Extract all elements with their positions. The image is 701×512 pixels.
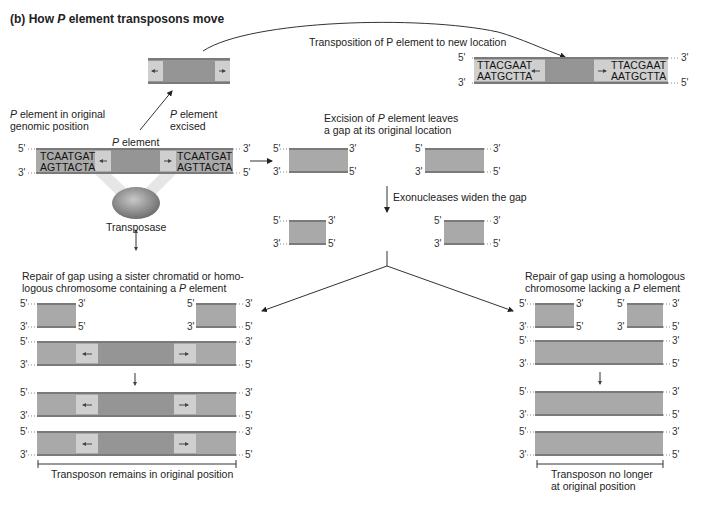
end-label: 5' — [273, 216, 280, 226]
end-label: 5' — [672, 450, 679, 460]
end-label: 5' — [245, 360, 252, 370]
end-label: 3' — [672, 427, 679, 437]
end-label: 5' — [519, 336, 526, 346]
end-label: 3' — [20, 360, 27, 370]
end-label: 3' — [78, 299, 85, 309]
new-left-sequence: TTACGAATAATGCTTA — [477, 60, 532, 82]
end-label: 5' — [328, 239, 335, 249]
end-label: 5' — [273, 144, 280, 154]
end-label: 3' — [273, 167, 280, 177]
end-label: 3' — [672, 387, 679, 397]
end-label: 3' — [493, 144, 500, 154]
end-label: 5' — [245, 411, 252, 421]
end-label: 3' — [519, 359, 526, 369]
transposase-label: Transposase — [106, 221, 166, 233]
gap-fragments-1 — [280, 149, 492, 172]
left-template-strand — [28, 342, 244, 365]
end-label: 5' — [493, 167, 500, 177]
end-label: 5' — [458, 53, 465, 63]
right-result-strand-1 — [527, 392, 671, 415]
left-bracket — [38, 460, 236, 468]
right-bracket — [537, 460, 663, 468]
end-label: 5' — [617, 299, 624, 309]
end-label: 3' — [245, 299, 252, 309]
end-label: 3' — [20, 411, 27, 421]
end-label: 3' — [519, 450, 526, 460]
end-label: 3' — [349, 144, 356, 154]
end-label: 3' — [493, 216, 500, 226]
new-right-sequence: TTACGAATAATGCTTA — [611, 60, 666, 82]
original-left-sequence: TCAATGATAGTTACTA — [40, 151, 95, 173]
end-label: 5' — [434, 216, 441, 226]
end-label: 3' — [273, 239, 280, 249]
end-label: 5' — [187, 299, 194, 309]
no-longer-label: Transposon no longerat original position — [551, 468, 653, 492]
end-label: 5' — [20, 337, 27, 347]
end-label: 3' — [672, 299, 679, 309]
gap-fragments-2 — [280, 221, 492, 244]
exonucleases-label: Exonucleases widen the gap — [393, 191, 527, 203]
end-label: 3' — [245, 388, 252, 398]
end-label: 5' — [20, 299, 27, 309]
end-label: 3' — [20, 450, 27, 460]
end-label: 3' — [415, 167, 422, 177]
end-label: 5' — [245, 322, 252, 332]
end-label: 5' — [672, 410, 679, 420]
transposase-protein — [112, 187, 160, 219]
end-label: 3' — [187, 322, 194, 332]
excision-label: Excision of P element leavesa gap at its… — [324, 112, 458, 136]
left-result-strand-2 — [28, 432, 244, 455]
left-result-strand-1 — [28, 393, 244, 416]
end-label: 3' — [243, 144, 250, 154]
end-label: 5' — [20, 388, 27, 398]
end-label: 5' — [519, 427, 526, 437]
original-position-label: P element in originalgenomic position — [10, 108, 105, 132]
end-label: 5' — [18, 144, 25, 154]
repair-sister-label: Repair of gap using a sister chromatid o… — [22, 270, 244, 294]
excised-p-element — [148, 59, 230, 83]
end-label: 3' — [18, 168, 25, 178]
end-label: 5' — [519, 387, 526, 397]
end-label: 3' — [245, 337, 252, 347]
end-label: 5' — [672, 359, 679, 369]
transposition-label: Transposition of P element to new locati… — [309, 36, 506, 48]
end-label: 3' — [519, 322, 526, 332]
end-label: 5' — [681, 78, 688, 88]
end-label: 3' — [672, 336, 679, 346]
end-label: 5' — [20, 427, 27, 437]
end-label: 5' — [245, 450, 252, 460]
end-label: 3' — [617, 322, 624, 332]
excised-label: P elementexcised — [170, 108, 217, 132]
end-label: 3' — [458, 78, 465, 88]
p-element-label: P element — [112, 136, 159, 148]
left-repair-small-fragments — [28, 304, 244, 327]
end-label: 5' — [349, 167, 356, 177]
end-label: 5' — [243, 168, 250, 178]
end-label: 3' — [20, 322, 27, 332]
end-label: 3' — [245, 427, 252, 437]
end-label: 3' — [328, 216, 335, 226]
end-label: 5' — [519, 299, 526, 309]
end-label: 5' — [493, 239, 500, 249]
end-label: 5' — [672, 322, 679, 332]
end-label: 3' — [519, 410, 526, 420]
repair-homolog-label: Repair of gap using a homologouschromoso… — [525, 270, 685, 294]
end-label: 5' — [576, 322, 583, 332]
end-label: 3' — [681, 53, 688, 63]
end-label: 3' — [434, 239, 441, 249]
end-label: 5' — [415, 144, 422, 154]
right-template-strand — [527, 341, 671, 364]
diagram-graphics — [0, 0, 701, 512]
remains-label: Transposon remains in original position — [51, 468, 233, 480]
original-right-sequence: TCAATGATAGTTACTA — [177, 151, 232, 173]
end-label: 3' — [576, 299, 583, 309]
right-result-strand-2 — [527, 432, 671, 455]
right-repair-small-fragments — [527, 304, 671, 327]
end-label: 5' — [78, 322, 85, 332]
